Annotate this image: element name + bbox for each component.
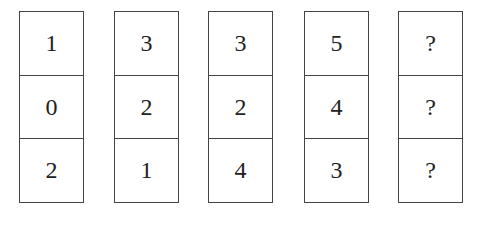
cell-bottom: 2 <box>20 138 83 202</box>
column-1: 1 0 2 <box>19 11 84 203</box>
cell-middle-unknown: ? <box>399 75 462 139</box>
cell-top: 3 <box>209 12 272 75</box>
cell-top: 3 <box>115 12 178 75</box>
cell-top: 5 <box>305 12 368 75</box>
cell-bottom: 1 <box>115 138 178 202</box>
column-4: 5 4 3 <box>304 11 369 203</box>
column-2: 3 2 1 <box>114 11 179 203</box>
cell-bottom: 4 <box>209 138 272 202</box>
cell-top: 1 <box>20 12 83 75</box>
column-5-unknown: ? ? ? <box>398 11 463 203</box>
column-3: 3 2 4 <box>208 11 273 203</box>
cell-bottom: 3 <box>305 138 368 202</box>
cell-middle: 2 <box>209 75 272 139</box>
cell-middle: 2 <box>115 75 178 139</box>
cell-middle: 0 <box>20 75 83 139</box>
cell-bottom-unknown: ? <box>399 138 462 202</box>
cell-top-unknown: ? <box>399 12 462 75</box>
cell-middle: 4 <box>305 75 368 139</box>
